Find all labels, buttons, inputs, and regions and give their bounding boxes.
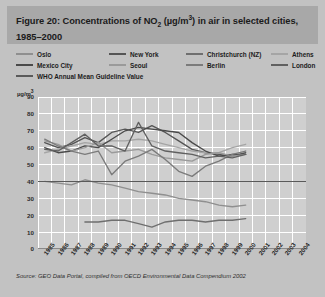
y-axis-tick-label: 10: [18, 229, 34, 236]
chart-svg: [38, 97, 306, 249]
y-axis-tick-label: 90: [18, 93, 34, 100]
figure-container: Figure 20: Concentrations of NO2 (µg/m3)…: [0, 0, 325, 297]
y-axis-tick-label: 40: [18, 178, 34, 185]
plot-area: [38, 97, 306, 249]
y-axis-tick-label: 70: [18, 127, 34, 134]
y-axis-tick-label: 30: [18, 195, 34, 202]
y-axis-tick-label: 20: [18, 212, 34, 219]
y-axis-tick-label: 0: [18, 245, 34, 252]
y-axis-tick-label: 50: [18, 161, 34, 168]
series-line-christchurch-nz: [85, 219, 246, 227]
y-axis-tick-label: 80: [18, 110, 34, 117]
y-axis-tick-label: 60: [18, 144, 34, 151]
plot-wrapper: 0102030405060708090198519861987198819891…: [0, 0, 325, 297]
source-note: Source: GEO Data Portal, compiled from O…: [16, 273, 246, 279]
